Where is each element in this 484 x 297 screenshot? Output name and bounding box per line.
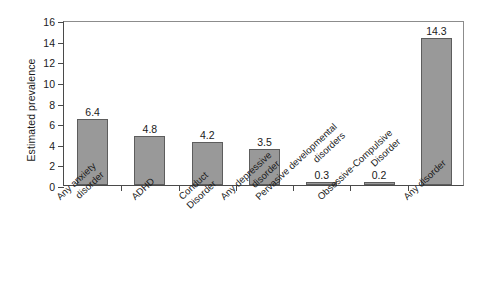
x-axis-tick — [121, 185, 122, 191]
y-axis-tick-label: 2 — [49, 160, 55, 173]
y-axis-tick-label: 16 — [43, 16, 55, 29]
y-axis-tick-label: 12 — [43, 57, 55, 70]
bar-value-label: 0.3 — [314, 169, 329, 181]
bar-value-label: 14.3 — [426, 25, 446, 37]
y-axis-tick: 14 — [58, 43, 64, 44]
y-axis-tick: 2 — [58, 166, 64, 167]
bar-value-label: 4.2 — [200, 129, 215, 141]
y-axis-tick-label: 8 — [49, 99, 55, 112]
y-axis-title: Estimated prevalence — [25, 25, 37, 195]
y-axis-tick: 12 — [58, 63, 64, 64]
y-axis-tick: 6 — [58, 125, 64, 126]
y-axis-tick: 10 — [58, 84, 64, 85]
y-axis-tick-label: 10 — [43, 78, 55, 91]
bar-value-label: 6.4 — [85, 106, 100, 118]
y-axis-tick: 8 — [58, 105, 64, 106]
bar-value-label: 3.5 — [257, 136, 272, 148]
bar-value-label: 4.8 — [143, 123, 158, 135]
bar-chart-figure: Estimated prevalence 0246810121416 6.44.… — [0, 0, 484, 297]
y-axis-tick-label: 14 — [43, 37, 55, 50]
bar-value-label: 0.2 — [372, 169, 387, 181]
y-axis-tick-label: 6 — [49, 119, 55, 132]
y-axis-tick: 16 — [58, 22, 64, 23]
y-axis-tick: 4 — [58, 146, 64, 147]
bar: 0.2 — [364, 182, 395, 185]
y-axis-tick-label: 4 — [49, 140, 55, 153]
